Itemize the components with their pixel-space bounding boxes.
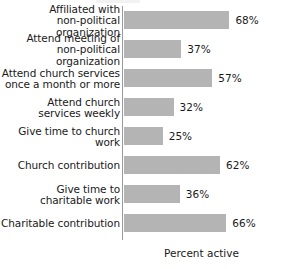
bar-fill [124,98,174,116]
bar-row: Give time to church work25% [0,122,285,151]
bar-value-label: 62% [226,160,249,171]
bar-value-label: 66% [232,218,255,229]
bar-track: 36% [124,185,279,203]
bar-row: Attend church services weekly32% [0,93,285,122]
bar-track: 25% [124,127,279,145]
bar-track: 57% [124,69,279,87]
bar-category-label: Attend meeting of non-political organiza… [0,32,120,67]
bar-category-label: Church contribution [0,160,120,172]
bar-fill [124,185,180,203]
bar-row: Attend church services once a month or m… [0,64,285,93]
bar-track: 32% [124,98,279,116]
bar-row: Give time to charitable work36% [0,180,285,209]
x-axis-title: Percent active [124,247,279,259]
bar-value-label: 57% [218,73,241,84]
bar-track: 68% [124,11,279,29]
bar-fill [124,214,226,232]
bar-value-label: 32% [180,102,203,113]
bar-row: Church contribution62% [0,151,285,180]
bar-category-label: Attend church services weekly [0,96,120,119]
bar-value-label: 68% [235,15,258,26]
horizontal-bar-chart: Affiliated with non-political organizati… [0,0,285,269]
bar-value-label: 25% [169,131,192,142]
bar-category-label: Give time to church work [0,125,120,148]
bar-track: 66% [124,214,279,232]
bar-fill [124,156,220,174]
bar-row: Charitable contribution66% [0,209,285,238]
bar-track: 62% [124,156,279,174]
bar-category-label: Charitable contribution [0,218,120,230]
plot-area: Affiliated with non-political organizati… [0,6,285,240]
bar-fill [124,11,229,29]
bar-track: 37% [124,40,279,58]
bar-fill [124,127,163,145]
bar-category-label: Attend church services once a month or m… [0,67,120,90]
bar-fill [124,69,212,87]
bar-value-label: 36% [186,189,209,200]
bar-value-label: 37% [187,44,210,55]
bar-fill [124,40,181,58]
bar-category-label: Give time to charitable work [0,183,120,206]
bar-row: Attend meeting of non-political organiza… [0,35,285,64]
